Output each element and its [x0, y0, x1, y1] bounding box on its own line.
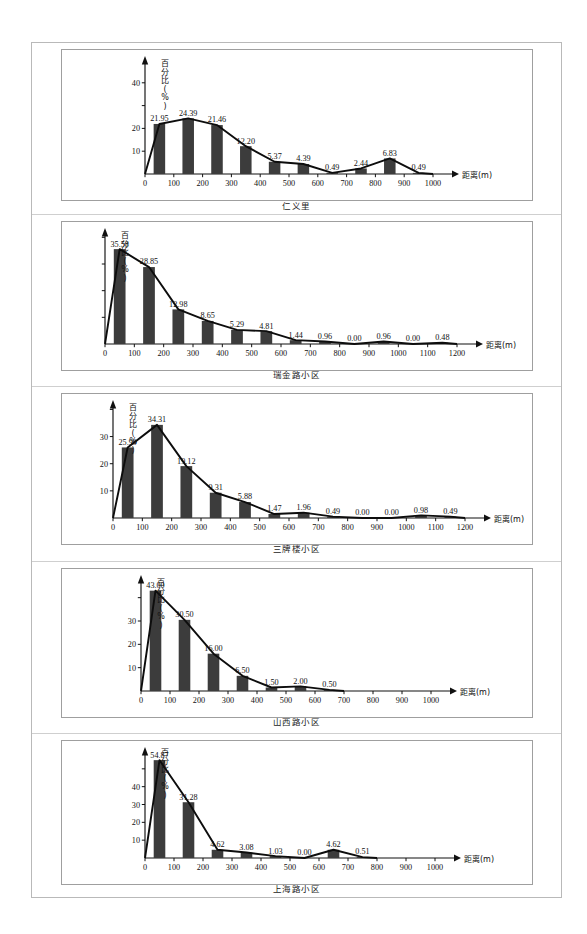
svg-text:1000: 1000 — [425, 179, 441, 188]
svg-text:0: 0 — [143, 179, 147, 188]
svg-text:100: 100 — [164, 696, 176, 705]
svg-text:300: 300 — [226, 863, 238, 872]
svg-text:20: 20 — [100, 460, 108, 469]
svg-text:1100: 1100 — [420, 349, 436, 358]
svg-text:200: 200 — [158, 349, 170, 358]
svg-text:0.00: 0.00 — [355, 508, 369, 517]
svg-text:1.47: 1.47 — [267, 504, 281, 513]
svg-text:6.50: 6.50 — [235, 666, 249, 675]
svg-text:距离(m): 距离(m) — [486, 340, 516, 350]
y-axis-label-4: 百 分 比 ( % ) — [156, 579, 166, 631]
svg-text:21.95: 21.95 — [150, 114, 168, 123]
document-page: 百 分 比 ( % ) 1020400100200300400500600700… — [31, 42, 562, 898]
svg-text:400: 400 — [254, 179, 266, 188]
svg-text:10: 10 — [100, 487, 108, 496]
svg-text:0.96: 0.96 — [318, 332, 332, 341]
svg-text:1000: 1000 — [423, 696, 439, 705]
svg-text:700: 700 — [312, 523, 324, 532]
svg-text:700: 700 — [338, 696, 350, 705]
svg-text:400: 400 — [216, 349, 228, 358]
svg-text:3.08: 3.08 — [239, 843, 253, 852]
svg-text:800: 800 — [342, 523, 354, 532]
svg-text:100: 100 — [128, 349, 140, 358]
svg-text:40: 40 — [132, 783, 140, 792]
svg-text:100: 100 — [168, 179, 180, 188]
svg-text:0: 0 — [111, 523, 115, 532]
svg-text:0.49: 0.49 — [325, 163, 339, 172]
svg-text:28.85: 28.85 — [140, 257, 158, 266]
chart-caption-4: 山西路小区 — [32, 715, 561, 727]
svg-text:1200: 1200 — [449, 349, 465, 358]
svg-text:300: 300 — [222, 696, 234, 705]
svg-text:0.48: 0.48 — [435, 333, 449, 342]
svg-text:1.44: 1.44 — [289, 331, 303, 340]
chart-frame-4: 百 分 比 ( % ) 1020300100200300400500600700… — [61, 568, 533, 718]
svg-text:0.49: 0.49 — [443, 507, 457, 516]
svg-text:700: 700 — [342, 863, 354, 872]
svg-text:4.62: 4.62 — [326, 840, 340, 849]
svg-text:400: 400 — [224, 523, 236, 532]
svg-text:5.88: 5.88 — [238, 492, 252, 501]
svg-text:700: 700 — [304, 349, 316, 358]
svg-text:21.46: 21.46 — [208, 115, 226, 124]
svg-text:2.00: 2.00 — [293, 677, 307, 686]
svg-text:30: 30 — [100, 433, 108, 442]
svg-text:0.50: 0.50 — [322, 680, 336, 689]
svg-text:1000: 1000 — [390, 349, 406, 358]
svg-text:0.00: 0.00 — [297, 848, 311, 857]
svg-text:40: 40 — [132, 79, 140, 88]
svg-text:19.12: 19.12 — [177, 457, 195, 466]
svg-text:5.29: 5.29 — [230, 320, 244, 329]
svg-text:5.37: 5.37 — [267, 152, 281, 161]
svg-text:0.51: 0.51 — [355, 847, 369, 856]
svg-text:400: 400 — [255, 863, 267, 872]
svg-text:9.31: 9.31 — [209, 483, 223, 492]
svg-text:200: 200 — [193, 696, 205, 705]
svg-text:20: 20 — [132, 818, 140, 827]
svg-text:0: 0 — [103, 349, 107, 358]
svg-text:200: 200 — [197, 863, 209, 872]
svg-text:0.49: 0.49 — [411, 163, 425, 172]
svg-text:10: 10 — [128, 664, 136, 673]
svg-text:900: 900 — [363, 349, 375, 358]
svg-text:600: 600 — [309, 696, 321, 705]
svg-text:距离(m): 距离(m) — [494, 514, 524, 524]
chart-frame-3: 百 分 比 ( % ) 1020300100200300400500600700… — [61, 393, 533, 545]
svg-text:1000: 1000 — [398, 523, 414, 532]
svg-text:900: 900 — [398, 179, 410, 188]
svg-text:30: 30 — [132, 801, 140, 810]
chart-panel-5: 百 分 比 ( % ) 1020304001002003004005006007… — [32, 734, 561, 897]
svg-text:800: 800 — [371, 863, 383, 872]
chart-panel-3: 百 分 比 ( % ) 1020300100200300400500600700… — [32, 387, 561, 562]
svg-text:500: 500 — [283, 179, 295, 188]
chart-frame-1: 百 分 比 ( % ) 1020400100200300400500600700… — [61, 49, 533, 201]
svg-text:4.39: 4.39 — [296, 154, 310, 163]
svg-text:900: 900 — [371, 523, 383, 532]
svg-text:500: 500 — [254, 523, 266, 532]
chart-caption-5: 上海路小区 — [32, 882, 561, 894]
svg-text:300: 300 — [195, 523, 207, 532]
svg-text:500: 500 — [280, 696, 292, 705]
svg-text:800: 800 — [369, 179, 381, 188]
svg-text:距离(m): 距离(m) — [464, 854, 494, 864]
svg-text:800: 800 — [367, 696, 379, 705]
svg-text:500: 500 — [246, 349, 258, 358]
y-axis-label-2: 百 分 比 ( % ) — [120, 232, 130, 284]
svg-text:600: 600 — [283, 523, 295, 532]
svg-text:距离(m): 距离(m) — [460, 687, 490, 697]
chart-svg-1: 1020400100200300400500600700800900100021… — [62, 50, 534, 200]
svg-text:20: 20 — [132, 124, 140, 133]
chart-svg-4: 1020300100200300400500600700800900100043… — [62, 569, 534, 717]
svg-text:12.20: 12.20 — [237, 137, 255, 146]
svg-text:800: 800 — [334, 349, 346, 358]
svg-text:900: 900 — [400, 863, 412, 872]
svg-text:20: 20 — [128, 640, 136, 649]
y-axis-label-3: 百 分 比 ( % ) — [128, 404, 138, 456]
svg-text:1.50: 1.50 — [264, 678, 278, 687]
svg-text:0.00: 0.00 — [406, 334, 420, 343]
svg-text:500: 500 — [284, 863, 296, 872]
svg-text:0: 0 — [139, 696, 143, 705]
svg-text:0: 0 — [143, 863, 147, 872]
svg-text:400: 400 — [251, 696, 263, 705]
svg-text:300: 300 — [225, 179, 237, 188]
